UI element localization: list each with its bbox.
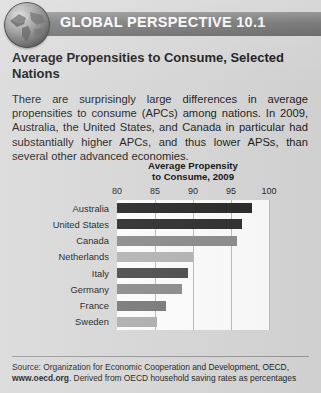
chart-title-line-2: to Consume, 2009 — [117, 171, 269, 182]
category-label-italy: Italy — [92, 269, 109, 279]
x-axis-tick-80: 80 — [112, 186, 122, 196]
chart-title: Average Propensity to Consume, 2009 — [117, 160, 269, 182]
category-label-france: France — [80, 301, 109, 311]
category-label-germany: Germany — [70, 285, 109, 295]
source-link[interactable]: www.oecd.org — [12, 373, 69, 383]
bar-sweden — [117, 317, 157, 327]
plot-area — [117, 200, 269, 330]
body-paragraph: There are surprisingly large differences… — [12, 92, 308, 163]
gridline — [269, 200, 270, 330]
bar-italy — [117, 268, 188, 278]
category-label-australia: Australia — [73, 204, 109, 214]
x-axis-tick-95: 95 — [226, 186, 236, 196]
source-prefix: Source: Organization for Economic Cooper… — [12, 362, 289, 372]
chart-title-line-1: Average Propensity — [117, 160, 269, 171]
divider — [12, 356, 309, 357]
bar-united-states — [117, 219, 242, 229]
banner-title: GLOBAL PERSPECTIVE 10.1 — [60, 14, 266, 30]
bar-netherlands — [117, 252, 193, 262]
global-perspective-box: GLOBAL PERSPECTIVE 10.1 Average Propensi… — [0, 0, 321, 393]
category-label-canada: Canada — [76, 236, 109, 246]
bar-france — [117, 301, 166, 311]
bar-germany — [117, 284, 182, 294]
x-axis-tick-labels: 80859095100 — [117, 186, 269, 198]
category-label-sweden: Sweden — [75, 317, 109, 327]
chart: Average Propensity to Consume, 2009 8085… — [0, 160, 321, 352]
source-note: Source: Organization for Economic Cooper… — [12, 362, 312, 385]
globe-icon — [4, 2, 50, 48]
x-axis-tick-90: 90 — [188, 186, 198, 196]
bar-canada — [117, 236, 237, 246]
y-axis-category-labels: AustraliaUnited StatesCanadaNetherlandsI… — [10, 200, 113, 330]
page-title: Average Propensities to Consume, Selecte… — [12, 50, 302, 82]
category-label-united-states: United States — [53, 220, 109, 230]
x-axis-tick-100: 100 — [261, 186, 276, 196]
bar-australia — [117, 203, 252, 213]
source-suffix: . Derived from OECD household saving rat… — [69, 373, 296, 383]
category-label-netherlands: Netherlands — [58, 252, 109, 262]
x-axis-tick-85: 85 — [150, 186, 160, 196]
